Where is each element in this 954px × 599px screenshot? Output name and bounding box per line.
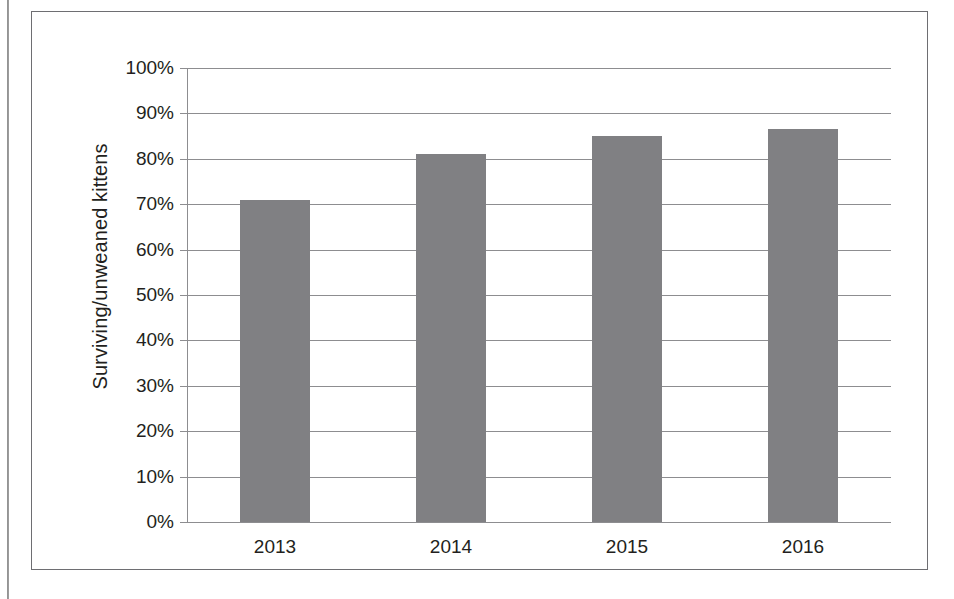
figure-frame: Surviving/unweaned kittens 0%10%20%30%40… (31, 11, 928, 570)
bar[interactable] (416, 154, 486, 522)
y-axis-tick (180, 159, 187, 160)
y-axis-tick (180, 431, 187, 432)
y-axis-tick (180, 113, 187, 114)
y-axis-tick-label: 0% (147, 511, 174, 533)
y-axis-tick-label: 80% (136, 148, 174, 170)
y-axis-tick-label: 40% (136, 329, 174, 351)
y-axis-tick-label: 100% (125, 57, 174, 79)
x-axis-tick-label: 2014 (363, 536, 539, 558)
y-axis-tick (180, 250, 187, 251)
bar[interactable] (768, 129, 838, 522)
y-axis-title: Surviving/unweaned kittens (89, 137, 112, 397)
y-axis-tick (180, 522, 187, 523)
y-axis-tick (180, 477, 187, 478)
x-axis-tick-label: 2016 (715, 536, 891, 558)
y-axis-tick (180, 340, 187, 341)
x-axis-tick-label: 2013 (187, 536, 363, 558)
page-edge-rule (7, 0, 9, 599)
y-axis-tick (180, 204, 187, 205)
y-axis-tick-label: 90% (136, 102, 174, 124)
x-axis-tick-label: 2015 (539, 536, 715, 558)
y-axis-tick (180, 68, 187, 69)
y-axis-tick-label: 70% (136, 193, 174, 215)
y-axis-tick-label: 10% (136, 466, 174, 488)
grid-line (187, 113, 891, 114)
y-axis-tick-label: 60% (136, 239, 174, 261)
y-axis-tick-label: 30% (136, 375, 174, 397)
grid-line (187, 522, 891, 523)
bar[interactable] (240, 200, 310, 522)
y-axis-tick-label: 50% (136, 284, 174, 306)
y-axis-tick (180, 295, 187, 296)
y-axis-tick-label: 20% (136, 420, 174, 442)
y-axis-tick (180, 386, 187, 387)
grid-line (187, 68, 891, 69)
bar-chart: Surviving/unweaned kittens 0%10%20%30%40… (32, 12, 929, 571)
bar[interactable] (592, 136, 662, 522)
plot-area: 0%10%20%30%40%50%60%70%80%90%100%2013201… (187, 68, 891, 522)
